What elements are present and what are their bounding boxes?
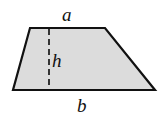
label-bottom-b: b [77, 95, 87, 116]
label-top-a: a [62, 4, 72, 25]
label-height-h: h [52, 50, 62, 71]
trapezoid-diagram: a h b [0, 0, 165, 119]
trapezoid-shape [13, 28, 155, 90]
